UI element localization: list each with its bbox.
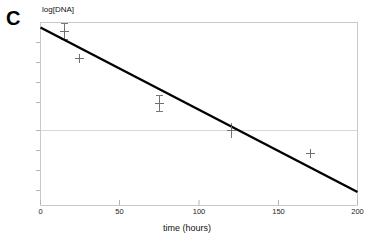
x-tick-label-100: 100 bbox=[193, 208, 206, 216]
x-axis-ticks bbox=[41, 200, 358, 205]
data-markers bbox=[60, 27, 315, 158]
y-axis-ticks bbox=[36, 43, 41, 191]
error-bars bbox=[61, 23, 232, 138]
x-tick-label-50: 50 bbox=[115, 208, 123, 216]
x-tick-label-0: 0 bbox=[38, 208, 42, 216]
x-tick-label-200: 200 bbox=[351, 208, 364, 216]
x-axis-title: time (hours) bbox=[0, 224, 374, 233]
plot-canvas bbox=[0, 0, 374, 244]
fit-line bbox=[41, 28, 358, 193]
figure-panel-c: C log[DNA] bbox=[0, 0, 374, 244]
plot-frame bbox=[41, 22, 358, 206]
x-tick-label-150: 150 bbox=[272, 208, 285, 216]
